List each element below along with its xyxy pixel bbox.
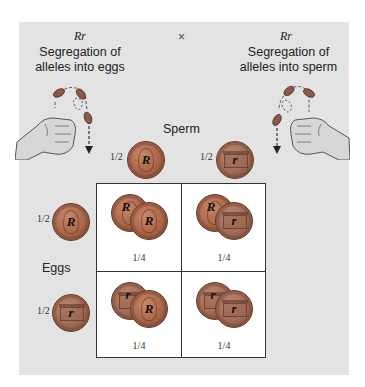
egg-coin-r: r xyxy=(52,294,90,332)
egg-fraction-r: 1/2 xyxy=(37,305,50,316)
cell-fraction: 1/4 xyxy=(182,340,266,351)
right-caption-line1: Segregation of xyxy=(226,45,351,60)
cell-coin-sperm: r xyxy=(215,290,253,328)
allele-letter: R xyxy=(122,199,131,215)
left-hand-tossing-illustration xyxy=(15,80,95,160)
left-parent-genotype: Rr xyxy=(50,29,110,44)
allele-letter: r xyxy=(232,152,237,168)
punnett-cell-rR: r R 1/4 xyxy=(97,272,181,359)
left-caption-line2: alleles into eggs xyxy=(20,60,140,75)
allele-letter: R xyxy=(145,213,154,229)
right-parent-caption: Segregation of alleles into sperm xyxy=(226,45,351,75)
sperm-label: Sperm xyxy=(163,122,200,136)
eggs-label: Eggs xyxy=(42,261,71,275)
egg-fraction-R: 1/2 xyxy=(37,213,50,224)
egg-coin-R: R xyxy=(52,203,90,241)
hand-coin-toss-icon xyxy=(15,80,95,160)
cell-coin-sperm: r xyxy=(215,202,253,240)
allele-letter: R xyxy=(207,199,216,215)
allele-letter: r xyxy=(231,213,236,229)
cell-fraction: 1/4 xyxy=(97,340,181,351)
left-parent-caption: Segregation of alleles into eggs xyxy=(20,45,140,75)
punnett-square: R R 1/4 R r 1/4 r R 1/4 r xyxy=(96,183,266,358)
hand-coin-toss-icon xyxy=(265,80,350,160)
cell-fraction: 1/4 xyxy=(182,252,266,263)
right-caption-line2: alleles into sperm xyxy=(226,60,351,75)
cell-fraction: 1/4 xyxy=(97,252,181,263)
allele-letter: R xyxy=(145,301,154,317)
cell-coin-sperm: R xyxy=(130,290,168,328)
right-hand-tossing-illustration xyxy=(265,80,350,160)
allele-letter: R xyxy=(67,214,76,230)
cross-symbol: × xyxy=(178,30,185,44)
allele-letter: r xyxy=(125,287,130,303)
sperm-fraction-r: 1/2 xyxy=(200,151,213,162)
punnett-cell-Rr: R r 1/4 xyxy=(182,184,266,271)
punnett-cell-RR: R R 1/4 xyxy=(97,184,181,271)
allele-letter: r xyxy=(231,301,236,317)
sperm-coin-R: R xyxy=(127,141,165,179)
allele-letter: r xyxy=(210,287,215,303)
cell-coin-sperm: R xyxy=(130,202,168,240)
punnett-cell-rr: r r 1/4 xyxy=(182,272,266,359)
sperm-fraction-R: 1/2 xyxy=(110,151,123,162)
left-caption-line1: Segregation of xyxy=(20,45,140,60)
right-parent-genotype: Rr xyxy=(256,29,316,44)
allele-letter: R xyxy=(142,152,151,168)
sperm-coin-r: r xyxy=(216,141,254,179)
allele-letter: r xyxy=(68,305,73,321)
